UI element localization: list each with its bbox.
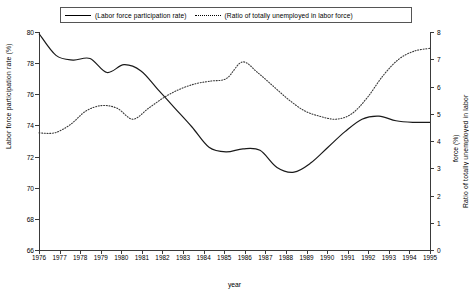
x-tick-label: 1991 (341, 254, 355, 261)
x-tick-label: 1984 (197, 254, 211, 261)
chart-page: (Labor force participation rate) (Ratio … (0, 0, 469, 298)
legend-item-participation: (Labor force participation rate) (65, 12, 187, 19)
y-axis-left-title: Labor force participation rate (%) (5, 43, 12, 149)
y-right-tick (430, 59, 434, 60)
x-axis-line (39, 250, 430, 251)
y-right-tick (430, 32, 434, 33)
y-left-tick-label: 66 (27, 247, 34, 254)
x-tick-label: 1980 (114, 254, 128, 261)
x-tick-label: 1989 (299, 254, 313, 261)
y-right-tick (430, 168, 434, 169)
x-tick-label: 1983 (176, 254, 190, 261)
y-right-tick-label: 3 (437, 165, 441, 172)
y-left-tick-label: 80 (27, 29, 34, 36)
y-right-tick-label: 2 (437, 192, 441, 199)
x-axis-title: year (0, 281, 469, 288)
legend-label-participation: (Labor force participation rate) (95, 12, 187, 19)
y-left-tick-label: 70 (27, 184, 34, 191)
dotted-line-sample-icon (195, 15, 221, 16)
y-right-tick (430, 223, 434, 224)
x-tick-label: 1987 (258, 254, 272, 261)
x-tick-label: 1981 (135, 254, 149, 261)
y-left-tick-label: 78 (27, 60, 34, 67)
x-tick-label: 1978 (73, 254, 87, 261)
x-tick-label: 1992 (361, 254, 375, 261)
chart-legend: (Labor force participation rate) (Ratio … (60, 7, 412, 23)
series-line-participation (39, 34, 430, 173)
x-tick-label: 1994 (402, 254, 416, 261)
y-right-tick-label: 7 (437, 56, 441, 63)
plot-area: 6668707274767880 012345678 1976197719781… (39, 32, 430, 250)
y-right-tick-label: 6 (437, 83, 441, 90)
y-left-tick-label: 74 (27, 122, 34, 129)
series-line-unemployment (39, 48, 430, 133)
x-tick-label: 1985 (217, 254, 231, 261)
x-tick-label: 1995 (423, 254, 437, 261)
y-left-tick-label: 72 (27, 153, 34, 160)
legend-item-unemployment: (Ratio of totally unemployed in labor fo… (187, 12, 353, 19)
y-right-tick-label: 8 (437, 29, 441, 36)
x-tick-label: 1986 (238, 254, 252, 261)
data-curves (39, 32, 430, 250)
y-right-tick-label: 1 (437, 219, 441, 226)
y-right-tick (430, 196, 434, 197)
y-right-tick-label: 0 (437, 247, 441, 254)
x-tick-label: 1982 (155, 254, 169, 261)
x-tick-label: 1993 (382, 254, 396, 261)
y-left-tick-label: 76 (27, 91, 34, 98)
x-tick-label: 1990 (320, 254, 334, 261)
y-right-tick-label: 5 (437, 110, 441, 117)
y-right-tick (430, 141, 434, 142)
y-left-tick-label: 68 (27, 215, 34, 222)
y-axis-right-title-line2: force (%) (452, 134, 459, 162)
y-axis-right-title: Ratio of totally unemployed in labor (462, 95, 469, 208)
x-tick-label: 1976 (32, 254, 46, 261)
y-right-tick (430, 87, 434, 88)
x-tick-label: 1988 (279, 254, 293, 261)
legend-label-unemployment: (Ratio of totally unemployed in labor fo… (225, 12, 353, 19)
y-right-tick (430, 114, 434, 115)
x-tick-label: 1979 (94, 254, 108, 261)
x-tick-label: 1977 (52, 254, 66, 261)
y-right-tick-label: 4 (437, 138, 441, 145)
solid-line-sample-icon (65, 15, 91, 16)
